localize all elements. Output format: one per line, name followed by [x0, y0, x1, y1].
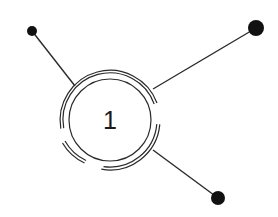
- hub-label: 1: [90, 104, 130, 136]
- spoke-line-top-right: [153, 28, 256, 89]
- spoke-line-top-left: [32, 31, 75, 86]
- endpoint-dot-bottom-right: [211, 191, 225, 205]
- diagram-canvas: [0, 0, 278, 217]
- endpoint-dot-top-right: [248, 20, 264, 36]
- endpoint-dot-top-left: [27, 26, 37, 36]
- spoke-line-bottom-right: [153, 150, 218, 198]
